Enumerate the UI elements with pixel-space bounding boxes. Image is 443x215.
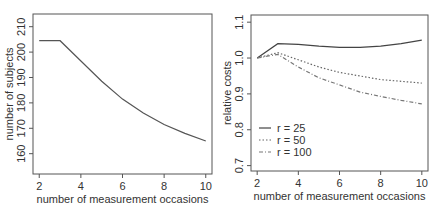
y-tick-label: 1.1 [233,15,245,30]
x-tick-label: 8 [378,177,384,189]
legend-label: r = 100 [277,146,312,158]
y-tick-label: 0.9 [233,86,245,101]
y-tick-label: 0.8 [233,122,245,137]
legend: r = 25r = 50r = 100 [259,122,312,158]
x-axis-label: number of measurement occasions [254,190,426,202]
series-line [257,53,422,83]
figure: number of subjects number of measurement… [0,0,443,215]
y-tick-label: 0.7 [233,158,245,173]
x-tick-label: 4 [295,177,301,189]
y-tick-label: 1.0 [233,50,245,65]
legend-label: r = 25 [277,122,305,134]
data-lines [257,40,422,104]
y-axis-label: relative costs [221,60,233,125]
x-tick-label: 6 [336,177,342,189]
axis-ticks: 2468100.70.80.91.01.1 [233,15,428,189]
x-tick-label: 10 [416,177,428,189]
relative-costs-chart: relative costs number of measurement occ… [0,0,443,215]
legend-label: r = 50 [277,134,305,146]
x-tick-label: 2 [254,177,260,189]
series-line [257,40,422,58]
series-line [257,54,422,104]
